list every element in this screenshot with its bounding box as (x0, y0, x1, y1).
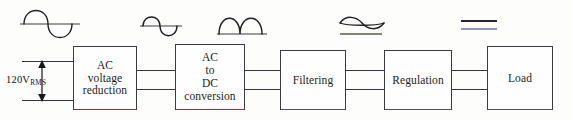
block-filtering[interactable]: Filtering (280, 50, 346, 110)
wire-regulation-to-load-bottom (451, 89, 488, 90)
wire-regulation-to-load-top (451, 70, 488, 71)
wire-filtering-to-regulation-top (345, 70, 385, 71)
arrow-down-icon (38, 94, 46, 102)
block-regulation[interactable]: Regulation (384, 50, 452, 110)
input-voltage-subscript: RMS (30, 79, 46, 87)
block-ac-to-dc-conversion[interactable]: AC to DC conversion (175, 44, 245, 110)
input-voltage-value: 120V (6, 74, 30, 85)
waveform-line-ac-input (18, 4, 82, 44)
waveform-filtered-ripple (336, 12, 388, 40)
block-ac-voltage-reduction[interactable]: AC voltage reduction (73, 46, 137, 110)
arrow-up-icon (38, 60, 46, 68)
block-label-ac-voltage-reduction: AC voltage reduction (81, 59, 129, 98)
block-label-regulation: Regulation (390, 74, 445, 87)
waveform-regulated-dc (458, 14, 500, 36)
wire-reduction-to-conversion-bottom (136, 89, 176, 90)
input-voltage-label: 120VRMS (6, 74, 46, 85)
wire-conversion-to-filtering-bottom (244, 89, 281, 90)
block-load[interactable]: Load (487, 46, 553, 110)
block-label-load: Load (506, 72, 534, 85)
block-label-ac-to-dc-conversion: AC to DC conversion (182, 51, 237, 103)
block-label-filtering: Filtering (291, 74, 336, 87)
wire-reduction-to-conversion-top (136, 70, 176, 71)
power-supply-block-diagram: 120VRMS AC voltage reduction AC to DC co… (0, 0, 572, 120)
waveform-reduced-ac (138, 12, 184, 42)
wire-filtering-to-regulation-bottom (345, 89, 385, 90)
wire-conversion-to-filtering-top (244, 70, 281, 71)
waveform-rectified-dc (214, 8, 270, 40)
